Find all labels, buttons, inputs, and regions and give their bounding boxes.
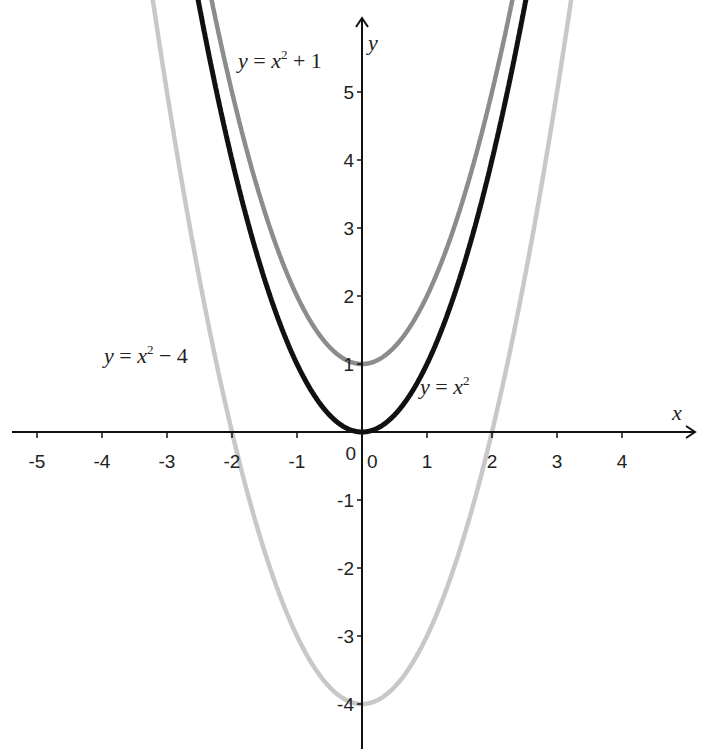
x-tick-label: -5 — [29, 451, 46, 472]
x-tick-label: 4 — [617, 451, 628, 472]
y-tick-label: 0 — [345, 443, 356, 464]
x-tick-label: -1 — [289, 451, 306, 472]
equation-label: y = x2 + 1 — [236, 47, 322, 73]
y-tick-label: -3 — [337, 626, 354, 647]
y-tick-label: -1 — [337, 490, 354, 511]
y-tick-label: 4 — [343, 150, 354, 171]
x-tick-label: 3 — [552, 451, 563, 472]
equation-label: y = x2 − 4 — [102, 342, 188, 368]
y-tick-label: -2 — [337, 558, 354, 579]
x-tick-label: -4 — [94, 451, 111, 472]
y-tick-label: 1 — [343, 354, 354, 375]
x-tick-label: -2 — [224, 451, 241, 472]
y-tick-label: -4 — [337, 694, 354, 715]
parabola-chart: -5-4-3-2-101234-4-3-2-1012345xyy = x2 + … — [0, 0, 701, 749]
y-axis-label: y — [366, 30, 378, 55]
y-tick-label: 3 — [343, 218, 354, 239]
y-tick-label: 2 — [343, 286, 354, 307]
x-axis-label: x — [671, 400, 682, 425]
x-tick-label: -3 — [159, 451, 176, 472]
y-tick-label: 5 — [343, 82, 354, 103]
x-tick-label: 0 — [367, 451, 378, 472]
labels: -5-4-3-2-101234-4-3-2-1012345xyy = x2 + … — [29, 30, 682, 715]
x-tick-label: 1 — [422, 451, 433, 472]
x-tick-label: 2 — [487, 451, 498, 472]
equation-label: y = x2 — [418, 373, 469, 399]
